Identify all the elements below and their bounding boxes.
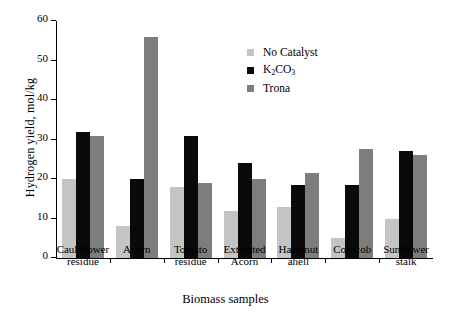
- bar-group: [170, 21, 212, 258]
- legend-item[interactable]: Trona: [247, 80, 318, 96]
- legend-label: Trona: [263, 82, 290, 94]
- y-tick-label: 60: [37, 12, 48, 24]
- y-tick: 40: [51, 99, 56, 100]
- y-tick: 10: [51, 218, 56, 219]
- legend-label: K2CO3: [263, 63, 295, 77]
- y-axis-title: Hydrogen yield, mol/kg: [23, 38, 38, 238]
- y-tick: 20: [51, 178, 56, 179]
- y-tick-label: 40: [37, 91, 48, 103]
- y-tick-label: 30: [37, 131, 48, 143]
- plot-area: 0102030405060: [56, 21, 433, 258]
- y-tick-label: 50: [37, 52, 48, 64]
- y-axis-line: [56, 21, 57, 258]
- bar-group: [116, 21, 158, 258]
- y-tick: 50: [51, 60, 56, 61]
- hydrogen-yield-bar-chart: Hydrogen yield, mol/kg 0102030405060 Cau…: [0, 0, 451, 319]
- bar: [76, 132, 90, 258]
- bar-group: [62, 21, 104, 258]
- legend: No CatalystK2CO3Trona: [247, 44, 318, 98]
- bar: [184, 136, 198, 258]
- y-tick-label: 10: [37, 210, 48, 222]
- bar: [144, 37, 158, 258]
- y-tick-label: 20: [37, 170, 48, 182]
- bar-group: [385, 21, 427, 258]
- legend-swatch-icon: [247, 49, 254, 56]
- legend-item[interactable]: K2CO3: [247, 62, 318, 78]
- legend-swatch-icon: [247, 67, 254, 74]
- x-tick-label-line: residue: [38, 255, 128, 267]
- x-tick-label-line: Sunflower: [361, 243, 451, 255]
- bar-group: [331, 21, 373, 258]
- bar: [90, 136, 104, 258]
- legend-item[interactable]: No Catalyst: [247, 44, 318, 60]
- x-tick-label-line: ahell: [253, 255, 343, 267]
- x-axis-title: Biomass samples: [0, 292, 451, 307]
- y-tick: 30: [51, 139, 56, 140]
- bar: [399, 151, 413, 258]
- x-tick-label: Sunflowerstalk: [361, 243, 451, 267]
- bar: [359, 149, 373, 258]
- legend-swatch-icon: [247, 85, 254, 92]
- x-tick-label-line: stalk: [361, 255, 451, 267]
- y-tick: 60: [51, 20, 56, 21]
- legend-label: No Catalyst: [263, 46, 318, 58]
